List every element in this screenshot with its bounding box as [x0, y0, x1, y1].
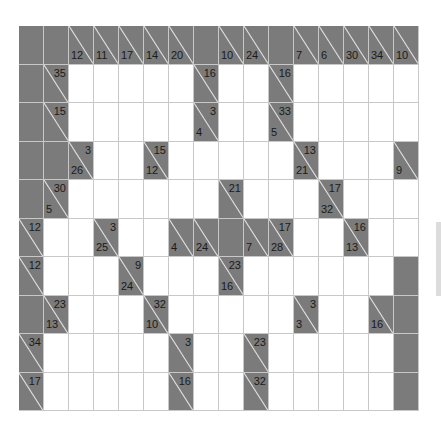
entry-cell[interactable]: [119, 65, 144, 104]
entry-cell[interactable]: [94, 103, 119, 142]
entry-cell[interactable]: [294, 65, 319, 104]
entry-cell[interactable]: [319, 257, 344, 296]
scrollbar[interactable]: [436, 222, 441, 296]
entry-cell[interactable]: [319, 142, 344, 181]
entry-cell[interactable]: [219, 373, 244, 412]
entry-cell[interactable]: [119, 180, 144, 219]
entry-cell[interactable]: [269, 257, 294, 296]
entry-cell[interactable]: [344, 65, 369, 104]
entry-cell[interactable]: [244, 180, 269, 219]
entry-cell[interactable]: [269, 334, 294, 373]
entry-cell[interactable]: [319, 103, 344, 142]
entry-cell[interactable]: [119, 296, 144, 335]
entry-cell[interactable]: [119, 103, 144, 142]
entry-cell[interactable]: [194, 257, 219, 296]
entry-cell[interactable]: [144, 334, 169, 373]
entry-cell[interactable]: [369, 257, 394, 296]
entry-cell[interactable]: [219, 65, 244, 104]
entry-cell[interactable]: [219, 296, 244, 335]
entry-cell[interactable]: [244, 142, 269, 181]
entry-cell[interactable]: [394, 103, 419, 142]
entry-cell[interactable]: [369, 334, 394, 373]
entry-cell[interactable]: [319, 334, 344, 373]
entry-cell[interactable]: [244, 103, 269, 142]
entry-cell[interactable]: [69, 219, 94, 258]
entry-cell[interactable]: [344, 257, 369, 296]
entry-cell[interactable]: [169, 296, 194, 335]
entry-cell[interactable]: [44, 219, 69, 258]
entry-cell[interactable]: [119, 334, 144, 373]
entry-cell[interactable]: [169, 257, 194, 296]
entry-cell[interactable]: [194, 373, 219, 412]
entry-cell[interactable]: [94, 257, 119, 296]
entry-cell[interactable]: [94, 296, 119, 335]
entry-cell[interactable]: [219, 334, 244, 373]
entry-cell[interactable]: [344, 296, 369, 335]
entry-cell[interactable]: [69, 180, 94, 219]
entry-cell[interactable]: [94, 180, 119, 219]
entry-cell[interactable]: [369, 65, 394, 104]
entry-cell[interactable]: [369, 373, 394, 412]
entry-cell[interactable]: [244, 65, 269, 104]
entry-cell[interactable]: [169, 180, 194, 219]
entry-cell[interactable]: [144, 373, 169, 412]
entry-cell[interactable]: [344, 373, 369, 412]
entry-cell[interactable]: [394, 180, 419, 219]
entry-cell[interactable]: [119, 219, 144, 258]
entry-cell[interactable]: [369, 219, 394, 258]
entry-cell[interactable]: [119, 373, 144, 412]
entry-cell[interactable]: [94, 373, 119, 412]
entry-cell[interactable]: [144, 219, 169, 258]
entry-cell[interactable]: [94, 334, 119, 373]
entry-cell[interactable]: [69, 65, 94, 104]
entry-cell[interactable]: [319, 65, 344, 104]
entry-cell[interactable]: [169, 65, 194, 104]
entry-cell[interactable]: [269, 296, 294, 335]
entry-cell[interactable]: [269, 142, 294, 181]
entry-cell[interactable]: [344, 103, 369, 142]
entry-cell[interactable]: [144, 180, 169, 219]
entry-cell[interactable]: [319, 219, 344, 258]
entry-cell[interactable]: [394, 219, 419, 258]
entry-cell[interactable]: [119, 142, 144, 181]
entry-cell[interactable]: [344, 180, 369, 219]
entry-cell[interactable]: [69, 257, 94, 296]
entry-cell[interactable]: [319, 296, 344, 335]
entry-cell[interactable]: [169, 142, 194, 181]
entry-cell[interactable]: [294, 180, 319, 219]
entry-cell[interactable]: [144, 257, 169, 296]
entry-cell[interactable]: [69, 296, 94, 335]
entry-cell[interactable]: [44, 373, 69, 412]
entry-cell[interactable]: [69, 373, 94, 412]
entry-cell[interactable]: [319, 373, 344, 412]
entry-cell[interactable]: [269, 180, 294, 219]
entry-cell[interactable]: [69, 334, 94, 373]
entry-cell[interactable]: [369, 103, 394, 142]
entry-cell[interactable]: [294, 103, 319, 142]
entry-cell[interactable]: [194, 296, 219, 335]
entry-cell[interactable]: [294, 373, 319, 412]
entry-cell[interactable]: [369, 142, 394, 181]
entry-cell[interactable]: [244, 257, 269, 296]
entry-cell[interactable]: [219, 142, 244, 181]
entry-cell[interactable]: [144, 65, 169, 104]
entry-cell[interactable]: [194, 142, 219, 181]
entry-cell[interactable]: [94, 142, 119, 181]
entry-cell[interactable]: [219, 103, 244, 142]
entry-cell[interactable]: [144, 103, 169, 142]
entry-cell[interactable]: [369, 180, 394, 219]
entry-cell[interactable]: [244, 296, 269, 335]
entry-cell[interactable]: [294, 334, 319, 373]
entry-cell[interactable]: [294, 257, 319, 296]
entry-cell[interactable]: [169, 103, 194, 142]
entry-cell[interactable]: [44, 257, 69, 296]
entry-cell[interactable]: [294, 219, 319, 258]
entry-cell[interactable]: [194, 180, 219, 219]
entry-cell[interactable]: [69, 103, 94, 142]
entry-cell[interactable]: [94, 65, 119, 104]
entry-cell[interactable]: [44, 334, 69, 373]
entry-cell[interactable]: [344, 142, 369, 181]
entry-cell[interactable]: [344, 334, 369, 373]
entry-cell[interactable]: [194, 334, 219, 373]
entry-cell[interactable]: [269, 373, 294, 412]
